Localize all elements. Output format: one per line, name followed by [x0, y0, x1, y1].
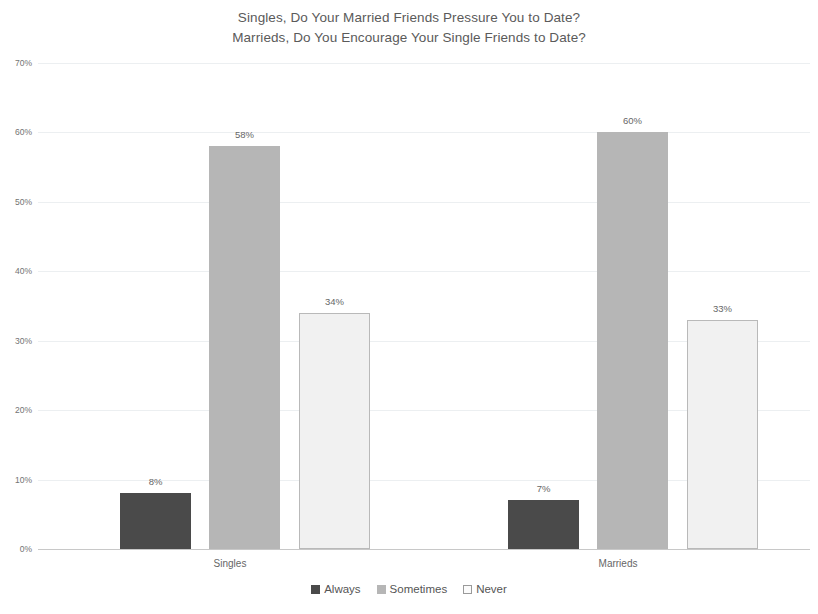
chart-title-line-1: Singles, Do Your Married Friends Pressur… [0, 8, 818, 28]
gridline-0 [38, 549, 810, 550]
gridline-50 [38, 202, 810, 203]
gridline-70 [38, 63, 810, 64]
bar-singles-always[interactable] [120, 493, 191, 549]
y-axis-tick-30: 30% [0, 336, 32, 346]
plot-area: 8%58%34%7%60%33% [38, 63, 810, 549]
bar-marrieds-never[interactable] [687, 320, 758, 549]
bar-value-label-singles-always: 8% [149, 476, 163, 487]
y-axis-tick-0: 0% [0, 544, 32, 554]
legend-label-never: Never [476, 583, 507, 595]
sometimes-swatch-icon [377, 585, 386, 594]
gridline-40 [38, 271, 810, 272]
bar-value-label-singles-sometimes: 58% [235, 129, 254, 140]
legend-label-sometimes: Sometimes [390, 583, 448, 595]
y-axis-tick-20: 20% [0, 405, 32, 415]
x-axis-category-singles: Singles [214, 558, 247, 569]
bar-singles-sometimes[interactable] [209, 146, 280, 549]
y-axis-tick-10: 10% [0, 475, 32, 485]
bar-singles-never[interactable] [299, 313, 370, 549]
never-swatch-icon [463, 585, 472, 594]
x-axis-category-marrieds: Marrieds [599, 558, 638, 569]
bar-value-label-marrieds-never: 33% [713, 303, 732, 314]
bar-value-label-singles-never: 34% [325, 296, 344, 307]
chart-legend: Always Sometimes Never [0, 583, 818, 595]
legend-item-always[interactable]: Always [311, 583, 360, 595]
bar-marrieds-always[interactable] [508, 500, 579, 549]
chart-title-line-2: Marrieds, Do You Encourage Your Single F… [0, 28, 818, 48]
y-axis-tick-40: 40% [0, 266, 32, 276]
bar-value-label-marrieds-always: 7% [537, 483, 551, 494]
legend-item-sometimes[interactable]: Sometimes [377, 583, 448, 595]
bar-value-label-marrieds-sometimes: 60% [623, 115, 642, 126]
legend-label-always: Always [324, 583, 360, 595]
chart-title: Singles, Do Your Married Friends Pressur… [0, 8, 818, 48]
legend-item-never[interactable]: Never [463, 583, 507, 595]
y-axis-tick-60: 60% [0, 127, 32, 137]
bar-marrieds-sometimes[interactable] [597, 132, 668, 549]
gridline-60 [38, 132, 810, 133]
bar-chart: Singles, Do Your Married Friends Pressur… [0, 0, 818, 614]
y-axis-tick-70: 70% [0, 58, 32, 68]
always-swatch-icon [311, 585, 320, 594]
y-axis-tick-50: 50% [0, 197, 32, 207]
